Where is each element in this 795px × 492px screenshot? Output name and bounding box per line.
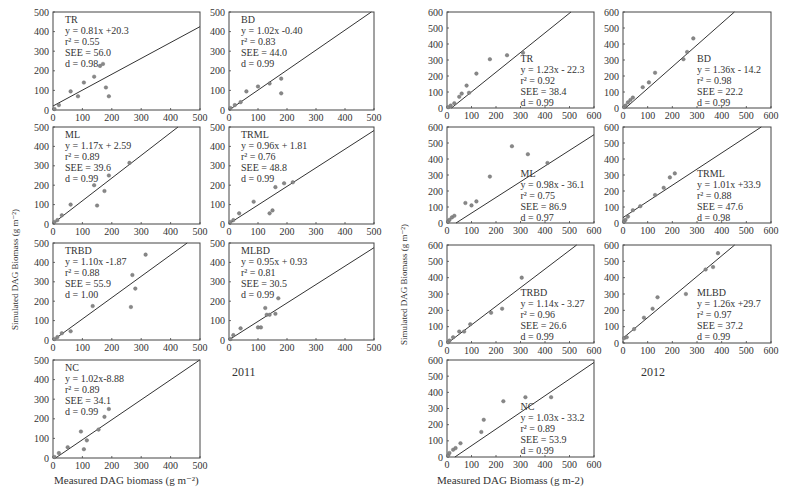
data-point — [277, 296, 281, 300]
stats-line: ML — [65, 129, 80, 140]
data-point — [448, 451, 452, 455]
data-point — [66, 445, 70, 449]
y-tick-label: 300 — [428, 403, 443, 414]
x-tick-label: 100 — [251, 342, 266, 353]
data-point — [549, 395, 553, 399]
data-point — [454, 446, 458, 450]
x-tick-label: 400 — [538, 459, 553, 470]
x-tick-label: 0 — [51, 460, 56, 471]
x-tick-label: 400 — [538, 225, 553, 236]
stats-line: TRML — [697, 168, 725, 179]
x-tick-label: 0 — [51, 226, 56, 237]
y-tick-label: 100 — [604, 202, 619, 213]
data-point — [232, 218, 236, 222]
figure-canvas: 01002003004005000100200300400500TRy = 0.… — [0, 0, 795, 492]
x-tick-label: 0 — [227, 112, 232, 123]
data-point — [107, 174, 111, 178]
stats-line: SEE = 38.4 — [521, 86, 567, 97]
stats-line: d = 0.99 — [697, 97, 730, 108]
x-tick-label: 0 — [445, 225, 450, 236]
y-tick-label: 200 — [34, 180, 49, 191]
y-tick-label: 0 — [220, 219, 225, 230]
x-tick-label: 200 — [489, 459, 504, 470]
data-point — [245, 90, 249, 94]
x-tick-label: 400 — [714, 110, 729, 121]
y-tick-label: 300 — [34, 46, 49, 57]
data-point — [716, 251, 720, 255]
year-label-2011: 2011 — [232, 365, 256, 379]
data-point — [101, 62, 105, 66]
x-tick-label: 600 — [587, 459, 602, 470]
y-tick-label: 200 — [604, 186, 619, 197]
y-tick-label: 100 — [604, 87, 619, 98]
stats-line: TRBD — [521, 287, 548, 298]
panel-2012-trml: 01002003004005006000100200300400500600TR… — [604, 122, 779, 237]
x-tick-label: 0 — [445, 345, 450, 356]
data-point — [704, 268, 708, 272]
y-tick-label: 200 — [604, 71, 619, 82]
x-tick-label: 500 — [739, 225, 754, 236]
y-axis-title-2011: Simulated DAG Biomass (g m⁻²) — [10, 209, 20, 330]
panel-2012-tr: 01002003004005006000100200300400500600TR… — [428, 7, 602, 122]
x-tick-label: 0 — [227, 226, 232, 237]
data-point — [233, 103, 237, 107]
y-tick-label: 500 — [34, 122, 49, 133]
y-tick-label: 200 — [428, 71, 443, 82]
data-point — [274, 312, 278, 316]
y-tick-label: 500 — [428, 371, 443, 382]
data-point — [56, 335, 60, 339]
x-tick-label: 200 — [280, 342, 295, 353]
y-tick-label: 600 — [428, 7, 443, 18]
data-point — [692, 37, 696, 41]
y-tick-label: 600 — [604, 122, 619, 133]
data-point — [56, 218, 60, 222]
data-point — [457, 95, 461, 99]
data-point — [453, 214, 457, 218]
x-tick-label: 100 — [640, 225, 655, 236]
stats-line: r² = 0.96 — [521, 309, 555, 320]
x-tick-label: 500 — [562, 345, 577, 356]
x-tick-label: 200 — [104, 342, 119, 353]
x-tick-label: 400 — [338, 342, 353, 353]
stats-line: r² = 0.76 — [241, 151, 275, 162]
x-tick-label: 300 — [309, 342, 324, 353]
y-tick-label: 500 — [34, 238, 49, 249]
y-tick-label: 100 — [210, 85, 225, 96]
stats-line: SEE = 56.0 — [65, 47, 111, 58]
x-tick-label: 300 — [513, 225, 528, 236]
y-tick-label: 400 — [604, 154, 619, 165]
data-point — [711, 265, 715, 269]
data-point — [128, 161, 132, 165]
stats-line: y = 0.98x - 36.1 — [521, 179, 585, 190]
panel-2011-tr: 01002003004005000100200300400500TRy = 0.… — [34, 7, 208, 124]
data-point — [69, 203, 73, 207]
x-tick-label: 0 — [621, 345, 626, 356]
stats-line: y = 0.95x + 0.93 — [241, 256, 307, 267]
data-point — [524, 395, 528, 399]
x-tick-label: 0 — [445, 110, 450, 121]
stats-line: d = 0.99 — [241, 173, 274, 184]
data-point — [92, 75, 96, 79]
x-tick-label: 500 — [562, 459, 577, 470]
x-tick-label: 100 — [75, 226, 90, 237]
data-point — [60, 331, 64, 335]
panel-2012-bd: 01002003004005006000100200300400500600BD… — [604, 7, 779, 122]
x-tick-label: 400 — [714, 345, 729, 356]
y-tick-label: 600 — [428, 122, 443, 133]
x-tick-label: 500 — [193, 460, 208, 471]
y-tick-label: 400 — [604, 39, 619, 50]
data-point — [69, 90, 73, 94]
y-tick-label: 300 — [604, 55, 619, 66]
y-tick-label: 600 — [428, 355, 443, 366]
x-tick-label: 600 — [764, 345, 779, 356]
y-tick-label: 0 — [438, 103, 443, 114]
x-tick-label: 400 — [714, 225, 729, 236]
x-tick-label: 300 — [513, 345, 528, 356]
stats-line: y = 1.23x - 22.3 — [521, 64, 585, 75]
data-point — [237, 212, 241, 216]
y-tick-label: 300 — [604, 289, 619, 300]
data-point — [104, 86, 108, 90]
data-point — [480, 430, 484, 434]
x-tick-label: 100 — [464, 345, 479, 356]
panel-2011-bd: 01002003004005000100200300400500BDy = 1.… — [210, 7, 382, 124]
